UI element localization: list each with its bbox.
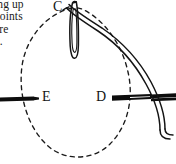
- thread-double-line: [67, 5, 174, 140]
- right-needle-bar: [112, 93, 176, 101]
- caption-line-2: points: [0, 10, 46, 22]
- stitch-diagram-figure: ing up points are d. C E D: [0, 0, 176, 164]
- point-label-e: E: [42, 90, 51, 104]
- vertical-needle: [70, 1, 79, 58]
- caption-line-3: are: [0, 23, 46, 35]
- caption-line-4: d.: [0, 35, 46, 47]
- point-label-d: D: [96, 90, 106, 104]
- point-label-c: C: [53, 0, 62, 14]
- left-needle-bar: [0, 96, 39, 101]
- caption-line-1: ing up: [0, 0, 46, 10]
- caption-text-block: ing up points are d.: [0, 0, 46, 48]
